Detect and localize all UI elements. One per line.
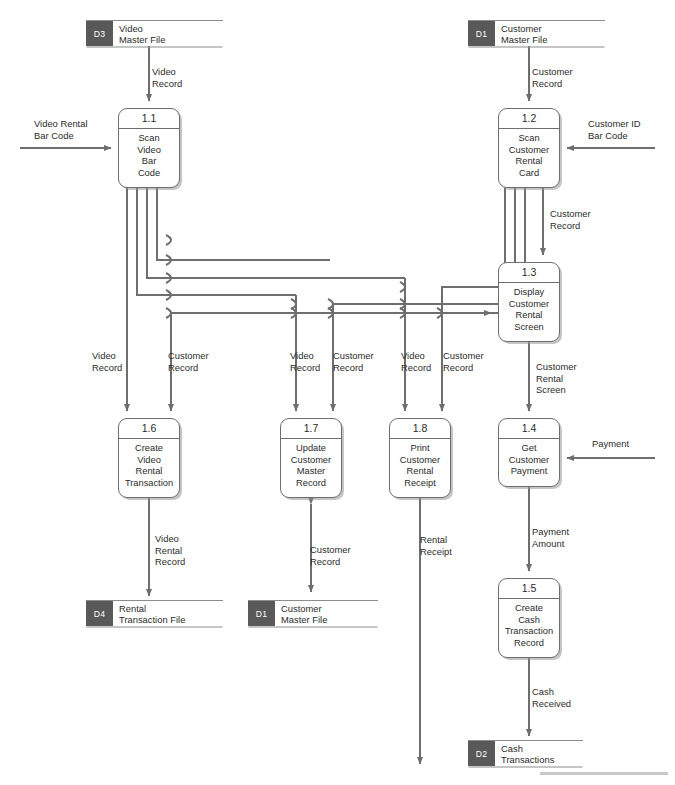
process-1-3[interactable]: 1.3DisplayCustomerRentalScreen <box>498 262 560 342</box>
flow-label: VideoRecord <box>92 350 122 373</box>
flow-label: VideoRentalRecord <box>155 533 185 568</box>
process-id: 1.5 <box>499 579 559 599</box>
process-id: 1.1 <box>119 109 179 129</box>
data-store-d2-4[interactable]: D2CashTransactions <box>468 740 583 766</box>
data-store-tag: D2 <box>468 741 495 766</box>
flow-label: VideoRecord <box>290 350 320 373</box>
process-id: 1.7 <box>281 419 341 439</box>
data-store-tag: D1 <box>468 21 495 46</box>
process-1-8[interactable]: 1.8PrintCustomerRentalReceipt <box>389 418 451 498</box>
flow-label: CustomerRecord <box>168 350 209 373</box>
data-store-name: CashTransactions <box>495 741 583 766</box>
flow-label: CustomerRecord <box>550 208 591 231</box>
process-1-2[interactable]: 1.2ScanCustomerRentalCard <box>498 108 560 188</box>
data-store-tag: D3 <box>86 21 113 46</box>
flow-label: CustomerRecord <box>443 350 484 373</box>
process-name: DisplayCustomerRentalScreen <box>499 283 559 338</box>
data-store-name: CustomerMaster File <box>495 21 605 46</box>
process-name: GetCustomerPayment <box>499 439 559 483</box>
process-id: 1.3 <box>499 263 559 283</box>
process-name: ScanCustomerRentalCard <box>499 129 559 184</box>
process-name: UpdateCustomerMasterRecord <box>281 439 341 494</box>
flow-label: CustomerRentalScreen <box>536 361 577 396</box>
process-1-5[interactable]: 1.5CreateCashTransactionRecord <box>498 578 560 658</box>
process-name: CreateCashTransactionRecord <box>499 599 559 654</box>
process-1-7[interactable]: 1.7UpdateCustomerMasterRecord <box>280 418 342 498</box>
flow-label: VideoRecord <box>401 350 431 373</box>
process-id: 1.8 <box>390 419 450 439</box>
data-store-tag: D1 <box>248 601 275 626</box>
process-name: ScanVideoBarCode <box>119 129 179 184</box>
data-store-tag: D4 <box>86 601 113 626</box>
flow-label: CustomerRecord <box>310 544 351 567</box>
process-name: PrintCustomerRentalReceipt <box>390 439 450 494</box>
process-1-4[interactable]: 1.4GetCustomerPayment <box>498 418 560 487</box>
external-input-label: Customer IDBar Code <box>588 118 641 141</box>
flow-label: CashReceived <box>532 686 571 709</box>
data-store-d3-0[interactable]: D3VideoMaster File <box>86 20 223 46</box>
process-1-1[interactable]: 1.1ScanVideoBarCode <box>118 108 180 188</box>
data-store-name: RentalTransaction File <box>113 601 223 626</box>
external-input-label: Payment <box>592 438 629 450</box>
process-id: 1.6 <box>119 419 179 439</box>
flow-label: CustomerRecord <box>532 66 573 89</box>
flow-label: PaymentAmount <box>532 526 569 549</box>
process-name: CreateVideoRentalTransaction <box>119 439 179 494</box>
footer-rule <box>540 772 668 775</box>
process-id: 1.2 <box>499 109 559 129</box>
flow-label: VideoRecord <box>152 66 182 89</box>
external-input-label: Video RentalBar Code <box>34 118 88 141</box>
flow-label: RentalReceipt <box>420 534 452 557</box>
data-store-d4-2[interactable]: D4RentalTransaction File <box>86 600 223 626</box>
data-store-d1-3[interactable]: D1CustomerMaster File <box>248 600 378 626</box>
data-store-name: VideoMaster File <box>113 21 223 46</box>
flow-label: CustomerRecord <box>333 350 374 373</box>
process-id: 1.4 <box>499 419 559 439</box>
dfd-canvas: 1.1ScanVideoBarCode1.2ScanCustomerRental… <box>0 0 675 785</box>
data-store-name: CustomerMaster File <box>275 601 378 626</box>
process-1-6[interactable]: 1.6CreateVideoRentalTransaction <box>118 418 180 498</box>
data-store-d1-1[interactable]: D1CustomerMaster File <box>468 20 605 46</box>
